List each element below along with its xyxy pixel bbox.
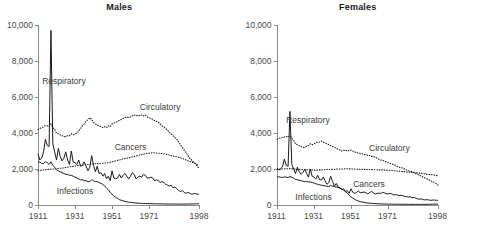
series-lines: [0, 0, 239, 235]
series-label-respiratory: Respiratory: [42, 76, 85, 86]
series-label-circulatory: Circulatory: [140, 102, 181, 112]
series-label-infections: Infections: [295, 192, 331, 202]
series-line-infections: [38, 162, 199, 204]
plot-area-females: 02,0004,0006,0008,00010,0001911193119511…: [239, 0, 477, 235]
series-line-circulatory: [277, 136, 438, 186]
chart-panel-males: Males 02,0004,0006,0008,00010,0001911193…: [0, 0, 239, 235]
series-line-respiratory: [38, 30, 199, 194]
series-label-cancers: Cancers: [353, 179, 385, 189]
series-label-cancers: Cancers: [115, 142, 147, 152]
mortality-figure: Males 02,0004,0006,0008,00010,0001911193…: [0, 0, 477, 235]
series-lines: [239, 0, 477, 235]
series-label-respiratory: Respiratory: [286, 115, 329, 125]
plot-area-males: 02,0004,0006,0008,00010,0001911193119511…: [0, 0, 239, 235]
series-label-circulatory: Circulatory: [369, 143, 410, 153]
chart-panel-females: Females 02,0004,0006,0008,00010,00019111…: [239, 0, 477, 235]
series-label-infections: Infections: [57, 186, 93, 196]
series-line-cancers: [38, 153, 199, 171]
